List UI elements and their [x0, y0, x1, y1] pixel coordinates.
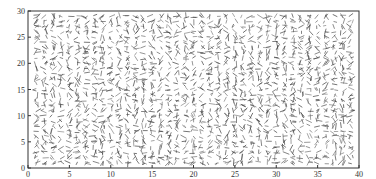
vector-segment	[265, 133, 267, 139]
vector-segment	[94, 104, 96, 107]
vector-segment	[159, 40, 162, 42]
vector-segment	[232, 84, 237, 87]
vector-segment	[193, 98, 194, 103]
vector-segment	[100, 68, 105, 69]
vector-segment	[133, 140, 134, 147]
vector-segment	[233, 73, 238, 76]
vector-segment	[335, 143, 336, 150]
vector-segment	[261, 139, 262, 146]
vector-segment	[168, 16, 172, 19]
y-tick-label: 10	[17, 112, 25, 121]
vector-segment	[109, 37, 110, 40]
vector-segment	[92, 83, 98, 84]
vector-segment	[68, 92, 72, 97]
vector-segment	[219, 128, 221, 133]
vector-segment	[110, 124, 113, 127]
vector-field	[32, 12, 355, 167]
vector-segment	[93, 125, 99, 128]
vector-segment	[159, 125, 161, 128]
vector-segment	[243, 135, 246, 140]
vector-segment	[191, 31, 196, 32]
vector-segment	[59, 67, 63, 72]
vector-segment	[242, 105, 246, 107]
vector-segment	[51, 135, 55, 139]
vector-segment	[101, 156, 103, 160]
vector-segment	[110, 139, 112, 143]
vector-segment	[117, 99, 120, 101]
vector-segment	[286, 73, 287, 76]
vector-segment	[243, 81, 247, 86]
vector-segment	[314, 126, 320, 127]
vector-segment	[276, 150, 277, 155]
vector-segment	[240, 99, 247, 100]
vector-segment	[282, 74, 285, 75]
vector-segment	[184, 32, 190, 33]
vector-segment	[347, 116, 353, 118]
vector-segment	[232, 100, 239, 101]
vector-segment	[135, 94, 136, 98]
vector-segment	[155, 99, 162, 100]
vector-segment	[180, 77, 187, 78]
vector-segment	[143, 24, 144, 29]
vector-segment	[117, 29, 119, 32]
vector-segment	[305, 94, 312, 95]
vector-segment	[186, 12, 187, 18]
vector-segment	[167, 130, 168, 134]
vector-segment	[349, 131, 353, 132]
vector-segment	[116, 25, 119, 26]
vector-segment	[184, 85, 186, 87]
vector-segment	[92, 113, 97, 117]
vector-segment	[149, 73, 154, 77]
vector-segment	[160, 144, 161, 147]
vector-segment	[333, 14, 338, 16]
vector-segment	[316, 40, 321, 45]
vector-segment	[324, 73, 325, 78]
vector-segment	[225, 135, 227, 139]
vector-segment	[183, 41, 186, 42]
vector-segment	[183, 162, 189, 164]
vector-segment	[108, 52, 111, 54]
vector-segment	[62, 152, 64, 154]
vector-segment	[169, 124, 172, 129]
vector-segment	[91, 37, 96, 38]
vector-segment	[339, 137, 344, 138]
vector-segment	[224, 92, 227, 96]
vector-segment	[291, 31, 298, 32]
vector-segment	[54, 76, 55, 80]
vector-segment	[153, 56, 154, 59]
vector-segment	[134, 52, 136, 55]
vector-segment	[283, 56, 286, 58]
vector-segment	[107, 140, 113, 141]
vector-segment	[174, 160, 176, 165]
vector-segment	[101, 99, 104, 100]
vector-segment	[265, 89, 268, 90]
vector-segment	[316, 100, 321, 101]
vector-segment	[207, 89, 213, 91]
vector-segment	[68, 56, 71, 59]
x-tick-label: 30	[272, 170, 280, 179]
vector-segment	[268, 113, 270, 118]
vector-segment	[93, 161, 100, 163]
vector-segment	[35, 81, 37, 85]
vector-segment	[123, 153, 129, 155]
vector-segment	[343, 117, 344, 124]
vector-segment	[192, 56, 195, 58]
vector-segment	[192, 67, 196, 71]
y-tick-label: 15	[17, 86, 25, 95]
vector-segment	[232, 157, 235, 159]
vector-segment	[181, 67, 185, 69]
vector-segment	[52, 152, 56, 153]
vector-segment	[133, 74, 135, 76]
vector-segment	[208, 135, 211, 137]
vector-segment	[275, 162, 280, 163]
vector-segment	[91, 70, 95, 76]
vector-segment	[258, 52, 263, 54]
vector-segment	[58, 136, 60, 138]
vector-segment	[318, 135, 319, 138]
vector-segment	[173, 36, 178, 38]
vector-segment	[99, 61, 104, 64]
vector-segment	[185, 96, 188, 102]
vector-segment	[275, 96, 279, 101]
vector-segment	[192, 157, 194, 160]
vector-segment	[251, 51, 253, 54]
